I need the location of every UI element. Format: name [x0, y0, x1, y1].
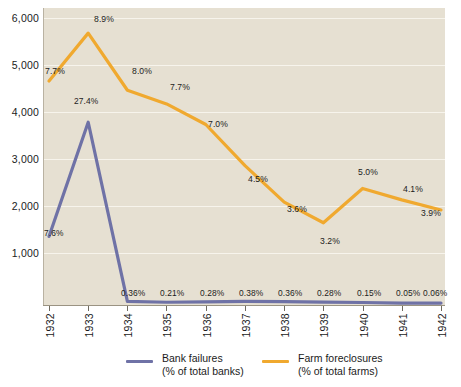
data-label: 7.7%: [170, 82, 190, 92]
y-tick-label: 2,000: [0, 200, 39, 212]
x-tick-label: 1936: [201, 313, 213, 338]
x-tick-label: 1941: [397, 313, 409, 338]
data-label: 7.0%: [208, 119, 228, 129]
y-tick-label: 4,000: [0, 106, 39, 118]
data-label: 4.1%: [403, 184, 423, 194]
data-label: 0.28%: [200, 288, 224, 298]
legend-series-sublabel: (% of total banks): [162, 365, 244, 378]
data-label: 0.21%: [160, 288, 184, 298]
y-tick-label: 3,000: [0, 153, 39, 165]
data-label: 3.9%: [421, 208, 441, 218]
x-tick-mark: [206, 306, 207, 311]
x-tick-mark: [49, 306, 50, 311]
data-label: 4.5%: [248, 174, 268, 184]
x-tick-mark: [166, 306, 167, 311]
y-tick-label: 5,000: [0, 59, 39, 71]
x-tick-mark: [441, 306, 442, 311]
data-label: 8.9%: [94, 14, 114, 24]
x-tick-label: 1937: [240, 313, 252, 338]
x-tick-mark: [284, 306, 285, 311]
x-axis-line: [43, 305, 445, 306]
y-axis-line: [43, 8, 44, 305]
data-label: 3.2%: [320, 236, 340, 246]
x-tick-label: 1942: [436, 313, 448, 338]
x-tick-label: 1935: [161, 313, 173, 338]
data-label: 0.05%: [396, 288, 420, 298]
legend-series-name: Bank failures: [162, 352, 244, 365]
y-tick-label: 1,000: [0, 247, 39, 259]
x-tick-label: 1934: [122, 313, 134, 338]
x-tick-mark: [402, 306, 403, 311]
y-axis-labels: 6,000 5,000 4,000 3,000 2,000 1,000: [0, 0, 39, 387]
x-tick-label: 1938: [279, 313, 291, 338]
x-tick-mark: [245, 306, 246, 311]
gridline: [43, 65, 445, 66]
data-label: 0.06%: [423, 288, 447, 298]
data-label: 0.15%: [357, 288, 381, 298]
y-tick-label: 6,000: [0, 12, 39, 24]
gridline: [43, 253, 445, 254]
x-tick-mark: [127, 306, 128, 311]
x-tick-label: 1932: [44, 313, 56, 338]
legend-series-sublabel: (% of total farms): [298, 365, 383, 378]
data-label: 7.7%: [45, 66, 65, 76]
gridline: [43, 206, 445, 207]
x-tick-mark: [363, 306, 364, 311]
data-label: 0.38%: [239, 288, 263, 298]
x-tick-label: 1939: [318, 313, 330, 338]
legend-series-name: Farm foreclosures: [298, 352, 383, 365]
data-label: 27.4%: [74, 96, 98, 106]
data-label: 8.0%: [132, 66, 152, 76]
data-label: 5.0%: [358, 167, 378, 177]
legend-label-bank-failures: Bank failures (% of total banks): [162, 352, 244, 377]
x-tick-mark: [323, 306, 324, 311]
x-tick-mark: [88, 306, 89, 311]
data-label: 0.28%: [317, 288, 341, 298]
data-label: 0.36%: [278, 288, 302, 298]
legend-swatch-bank-failures: [126, 360, 153, 363]
legend-swatch-farm-foreclosures: [262, 360, 289, 363]
chart-legend: Bank failures (% of total banks) Farm fo…: [0, 352, 461, 387]
data-label: 3.6%: [287, 204, 307, 214]
chart-container: 6,000 5,000 4,000 3,000 2,000 1,000 1932…: [0, 0, 461, 387]
gridline: [43, 112, 445, 113]
data-label: 0.36%: [121, 288, 145, 298]
plot-area: [43, 8, 445, 305]
legend-label-farm-foreclosures: Farm foreclosures (% of total farms): [298, 352, 383, 377]
gridline: [43, 159, 445, 160]
x-tick-label: 1933: [83, 313, 95, 338]
data-label: 7.6%: [44, 228, 64, 238]
x-tick-label: 1940: [358, 313, 370, 338]
